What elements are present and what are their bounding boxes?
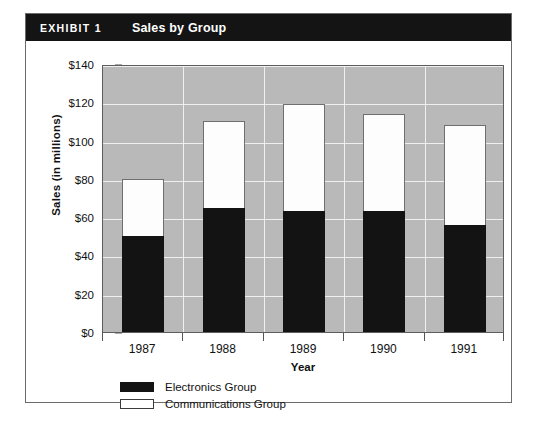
legend-swatch-communications xyxy=(120,399,154,409)
bar-stack xyxy=(283,104,325,332)
exhibit-title: Sales by Group xyxy=(132,21,227,35)
x-axis-tick-mark xyxy=(263,333,264,341)
x-axis-title: Year xyxy=(102,361,504,373)
x-axis-tick-labels: 19871988198919901991 xyxy=(102,342,504,360)
y-axis-tick-label: $80 xyxy=(75,174,94,186)
y-axis-tick-label: $60 xyxy=(75,212,94,224)
y-axis-tick-label: $100 xyxy=(68,136,94,148)
x-axis-tick-label: 1987 xyxy=(129,342,156,356)
legend-item: Electronics Group xyxy=(120,379,286,394)
bar-segment-communications-group xyxy=(444,125,486,225)
legend-label: Communications Group xyxy=(165,398,286,410)
chart-region: Sales (in millions) $0$20$40$60$80$100$1… xyxy=(26,41,511,402)
gridline-horizontal xyxy=(103,66,503,67)
bar-segment-electronics-group xyxy=(122,236,164,332)
x-axis-tick-label: 1988 xyxy=(209,342,236,356)
plot-area xyxy=(102,65,504,333)
legend-item: Communications Group xyxy=(120,396,286,411)
bar-stack xyxy=(444,125,486,332)
bar-segment-communications-group xyxy=(122,179,164,236)
y-axis-tick-label: $120 xyxy=(68,97,94,109)
bar-stack xyxy=(203,121,245,332)
x-axis-tick-label: 1991 xyxy=(450,342,477,356)
y-axis-tick-label: $40 xyxy=(75,250,94,262)
legend-label: Electronics Group xyxy=(165,381,256,393)
y-axis-tick-labels: $0$20$40$60$80$100$120$140 xyxy=(46,65,94,333)
x-axis-tick-mark xyxy=(102,333,103,341)
bar-stack xyxy=(122,179,164,332)
gridline-vertical xyxy=(183,66,184,332)
bar-segment-electronics-group xyxy=(283,211,325,332)
x-axis-tick-label: 1990 xyxy=(370,342,397,356)
y-axis-tick-label: $0 xyxy=(81,327,94,339)
exhibit-frame: EXHIBIT 1 Sales by Group Sales (in milli… xyxy=(25,13,512,403)
x-axis-tick-mark xyxy=(503,333,504,341)
gridline-vertical xyxy=(425,66,426,332)
x-axis-ticks xyxy=(102,333,504,341)
bar-segment-electronics-group xyxy=(444,225,486,332)
gridline-vertical xyxy=(264,66,265,332)
bar-segment-communications-group xyxy=(203,121,245,207)
bar-segment-communications-group xyxy=(363,114,405,212)
bar-segment-communications-group xyxy=(283,104,325,211)
y-axis-tick-label: $140 xyxy=(68,59,94,71)
x-axis-tick-mark xyxy=(343,333,344,341)
legend-swatch-electronics xyxy=(120,382,154,392)
bar-stack xyxy=(363,114,405,332)
x-axis-tick-mark xyxy=(182,333,183,341)
bar-segment-electronics-group xyxy=(363,211,405,332)
gridline-vertical xyxy=(344,66,345,332)
chart-legend: Electronics GroupCommunications Group xyxy=(120,379,286,413)
x-axis-tick-label: 1989 xyxy=(290,342,317,356)
bar-segment-electronics-group xyxy=(203,208,245,332)
x-axis-tick-mark xyxy=(424,333,425,341)
exhibit-header: EXHIBIT 1 Sales by Group xyxy=(26,14,511,41)
y-axis-tick-label: $20 xyxy=(75,289,94,301)
exhibit-number: EXHIBIT 1 xyxy=(40,22,102,34)
